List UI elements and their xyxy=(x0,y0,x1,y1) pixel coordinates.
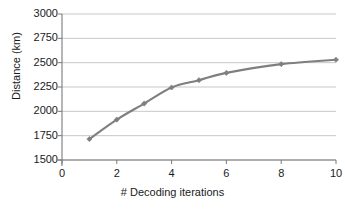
x-axis-title: # Decoding iterations xyxy=(0,186,345,198)
x-axis-tick-label: 2 xyxy=(102,168,132,179)
x-axis-tick-label: 8 xyxy=(266,168,296,179)
x-axis-tick-label: 10 xyxy=(321,168,345,179)
x-axis-tick-label: 0 xyxy=(47,168,77,179)
x-axis-tick-label: 4 xyxy=(157,168,187,179)
x-axis-tick-labels: 0246810 xyxy=(0,0,345,213)
line-chart: Distance (km) 15001750200022502500275030… xyxy=(0,0,345,213)
x-axis-tick-label: 6 xyxy=(211,168,241,179)
